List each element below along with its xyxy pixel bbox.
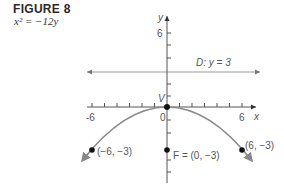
focus-label: F = (0, −3) [173,150,220,161]
point-right-label: (6, −3) [245,140,274,151]
focus-point [164,147,170,153]
point-left-label: (−6, −3) [97,146,132,157]
x-tick-label-neg6: -6 [86,112,95,123]
vertex-label: V [158,93,166,104]
point-left [89,147,95,153]
directrix-label: D: y = 3 [196,57,231,68]
vertex-point [164,104,170,110]
parabola-plot: D: y = 3 -6 0 6 x [0,0,284,190]
y-axis-label: y [157,12,164,23]
point-right [239,147,245,153]
x-tick-label-0: 0 [160,112,166,123]
y-axis [167,16,171,183]
x-axis-label: x [253,111,260,122]
y-tick-label-6: 6 [157,28,163,39]
x-tick-label-6: 6 [239,112,245,123]
